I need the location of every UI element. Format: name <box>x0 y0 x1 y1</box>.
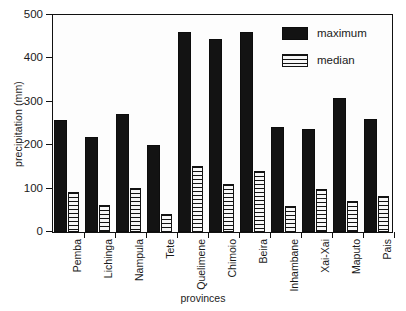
y-tick-label: 0 <box>37 225 43 237</box>
bar-median <box>223 184 234 232</box>
y-tick: 500 <box>46 14 53 15</box>
x-axis-label-pais: Pais <box>381 239 393 259</box>
y-axis-title: precipitation (mm) <box>12 44 24 204</box>
legend-label-median: median <box>317 54 355 66</box>
bar-median <box>130 188 141 232</box>
x-axis-title: provinces <box>0 292 406 304</box>
bar-median <box>192 166 203 232</box>
bar-median <box>68 192 79 232</box>
bar-median <box>99 205 110 232</box>
x-axis-category-labels: PembaLichingaNampulaTeteQuelimeneChimoio… <box>52 233 393 293</box>
bar-median <box>378 196 389 232</box>
bar-maximum <box>147 145 160 232</box>
y-tick-label: 400 <box>24 51 43 63</box>
legend-item-maximum: maximum <box>282 22 386 44</box>
x-axis-label-chimoio: Chimoio <box>226 239 238 278</box>
x-axis-label-lichinga: Lichinga <box>102 239 114 278</box>
bar-median <box>316 189 327 232</box>
x-axis-label-pemba: Pemba <box>71 239 83 272</box>
y-tick: 400 <box>46 57 53 58</box>
x-axis-label-quelimene: Quelimene <box>195 239 207 290</box>
bar-group <box>177 15 208 232</box>
legend-label-maximum: maximum <box>317 27 367 39</box>
y-tick-label: 300 <box>24 95 43 107</box>
bar-median <box>285 206 296 232</box>
bar-group <box>239 15 270 232</box>
legend-swatch-maximum <box>282 27 308 40</box>
bar-maximum <box>116 114 129 232</box>
y-tick: 200 <box>46 144 53 145</box>
bar-maximum <box>178 32 191 232</box>
x-axis-label-maputo: Maputo <box>350 239 362 274</box>
chart-legend: maximummedian <box>282 22 386 76</box>
x-axis-label-tete: Tete <box>164 239 176 259</box>
bar-maximum <box>240 32 253 232</box>
bar-maximum <box>54 120 67 232</box>
legend-swatch-median <box>282 54 308 67</box>
bar-median <box>347 201 358 232</box>
y-tick: 0 <box>46 231 53 232</box>
precipitation-bar-chart: precipitation (mm) 0100200300400500 Pemb… <box>0 0 406 311</box>
bar-maximum <box>271 127 284 232</box>
x-tick <box>394 232 395 238</box>
y-tick-label: 500 <box>24 8 43 20</box>
bar-maximum <box>85 137 98 232</box>
bar-group <box>84 15 115 232</box>
x-axis-label-beira: Beira <box>257 239 269 264</box>
y-tick-label: 200 <box>24 138 43 150</box>
x-axis-label-inhambane: Inhambane <box>288 239 300 292</box>
bar-maximum <box>364 119 377 232</box>
y-tick-label: 100 <box>24 182 43 194</box>
x-axis-label-nampula: Nampula <box>133 239 145 281</box>
bar-median <box>254 171 265 232</box>
bar-group <box>208 15 239 232</box>
bar-group <box>146 15 177 232</box>
bar-maximum <box>333 98 346 232</box>
bar-maximum <box>209 39 222 232</box>
bar-group <box>115 15 146 232</box>
y-tick: 100 <box>46 188 53 189</box>
bar-median <box>161 214 172 232</box>
bar-maximum <box>302 129 315 232</box>
y-tick: 300 <box>46 101 53 102</box>
legend-item-median: median <box>282 49 386 71</box>
x-axis-label-xai-xai: Xai-Xai <box>319 239 331 273</box>
bar-group <box>53 15 84 232</box>
